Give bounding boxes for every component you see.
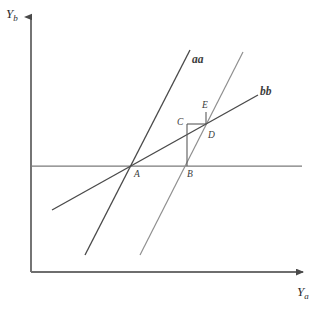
- diagram-canvas: [0, 0, 326, 312]
- y-axis-label-subscript: b: [13, 13, 18, 23]
- economics-diagram-figure: Yb Ya aa bb A B C D E: [0, 0, 326, 312]
- x-axis-label-subscript: a: [304, 291, 309, 301]
- curve-label-bb: bb: [260, 86, 272, 98]
- point-label-c: C: [177, 118, 183, 128]
- point-label-e: E: [202, 101, 208, 111]
- point-label-d: D: [208, 131, 215, 141]
- curve-label-aa: aa: [192, 54, 204, 66]
- y-axis-label: Yb: [6, 7, 18, 20]
- point-label-a: A: [134, 170, 140, 180]
- curve-aa: [85, 50, 190, 255]
- x-axis-label: Ya: [297, 285, 309, 298]
- point-label-b: B: [187, 170, 193, 180]
- curve-bb: [52, 95, 258, 210]
- curve-aa-shifted: [140, 52, 243, 255]
